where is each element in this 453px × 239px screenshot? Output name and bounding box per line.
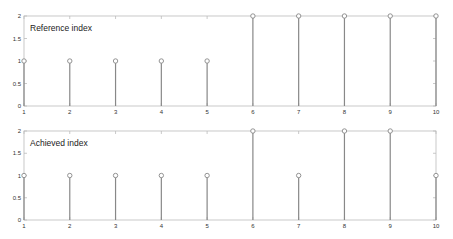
y-tick-label: 0.5: [13, 81, 22, 87]
y-tick-label: 0: [18, 103, 22, 109]
x-tick-label: 9: [389, 109, 393, 115]
stem-chart-figure: 00.511.5212345678910Reference index 00.5…: [0, 0, 453, 239]
x-tick-label: 7: [297, 109, 301, 115]
y-tick-label: 2: [18, 13, 22, 19]
x-tick-label: 3: [114, 223, 118, 229]
x-tick-label: 9: [389, 223, 393, 229]
stem-marker: [251, 14, 255, 18]
y-tick-label: 1.5: [13, 150, 22, 156]
y-tick-label: 1: [18, 173, 22, 179]
stem-marker: [434, 14, 438, 18]
plot-title: Reference index: [30, 23, 93, 33]
stem-marker: [251, 129, 255, 133]
stem-marker: [434, 173, 438, 177]
stem-marker: [205, 59, 209, 63]
achieved-index-plot: 00.511.5212345678910Achieved index: [13, 128, 440, 229]
stem-marker: [113, 59, 117, 63]
y-tick-label: 2: [18, 128, 22, 134]
stem-marker: [22, 173, 26, 177]
stem-marker: [159, 59, 163, 63]
stem-marker: [342, 129, 346, 133]
reference-index-plot: 00.511.5212345678910Reference index: [13, 13, 440, 115]
x-tick-label: 8: [343, 109, 347, 115]
x-tick-label: 8: [343, 223, 347, 229]
x-tick-label: 10: [433, 109, 440, 115]
x-tick-label: 4: [160, 223, 164, 229]
stem-marker: [296, 14, 300, 18]
stem-marker: [159, 173, 163, 177]
x-tick-label: 10: [433, 223, 440, 229]
x-tick-label: 6: [251, 109, 255, 115]
x-tick-label: 5: [205, 109, 209, 115]
x-tick-label: 3: [114, 109, 118, 115]
x-tick-label: 6: [251, 223, 255, 229]
x-tick-label: 7: [297, 223, 301, 229]
stem-marker: [113, 173, 117, 177]
stem-marker: [22, 59, 26, 63]
x-tick-label: 1: [22, 223, 26, 229]
y-tick-label: 0.5: [13, 195, 22, 201]
stem-marker: [296, 173, 300, 177]
x-tick-label: 1: [22, 109, 26, 115]
y-tick-label: 0: [18, 217, 22, 223]
stem-marker: [388, 129, 392, 133]
y-tick-label: 1.5: [13, 36, 22, 42]
y-tick-label: 1: [18, 58, 22, 64]
stem-marker: [205, 173, 209, 177]
stem-marker: [68, 59, 72, 63]
x-tick-label: 4: [160, 109, 164, 115]
stem-marker: [342, 14, 346, 18]
plot-title: Achieved index: [30, 138, 88, 148]
x-tick-label: 5: [205, 223, 209, 229]
stem-marker: [388, 14, 392, 18]
x-tick-label: 2: [68, 223, 72, 229]
x-tick-label: 2: [68, 109, 72, 115]
stem-marker: [68, 173, 72, 177]
